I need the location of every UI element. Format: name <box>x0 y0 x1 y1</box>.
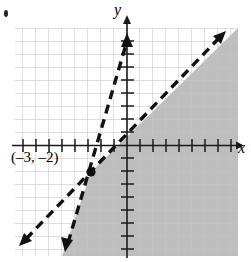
intersection-point-marker <box>86 167 95 176</box>
point-coordinate-label: (–3, –2) <box>11 150 59 165</box>
graph-figure: y x (–3, –2) <box>0 0 251 262</box>
y-axis-arrow <box>123 15 131 24</box>
x-axis-label: x <box>238 140 245 156</box>
coordinate-plane-svg <box>0 0 251 262</box>
y-axis-label: y <box>114 2 121 18</box>
